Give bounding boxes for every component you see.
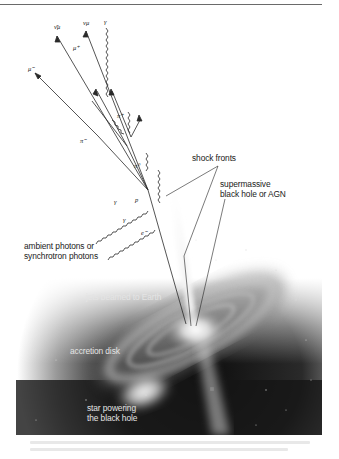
diagram-graphics	[16, 0, 322, 435]
text-line	[30, 441, 310, 444]
label-muon-neutrino: νμ	[83, 19, 89, 26]
faded-body-text	[30, 441, 310, 455]
label-mu-plus: μ⁺	[73, 44, 79, 52]
label-anti-muon-neutrino: ν̄μ	[54, 23, 60, 30]
label-pi-zero: π⁰	[134, 162, 140, 170]
label-ambient-photons: ambient photons or synchrotron photons	[24, 241, 98, 261]
agn-diagram: ν̄μ νμ γ μ⁺ μ⁻ π⁺ π⁻ π⁰ p γ γ e⁻ shock f…	[16, 0, 322, 435]
label-mu-minus: μ⁻	[28, 65, 34, 73]
label-accretion-disk: accretion disk	[70, 346, 120, 356]
text-line	[30, 448, 288, 451]
label-supermassive-black-hole: supermassive black hole or AGN	[220, 179, 286, 199]
label-gamma-top: γ	[104, 18, 107, 25]
label-pi-plus: π⁺	[117, 112, 123, 120]
label-jets: jets beamed to Earth	[86, 292, 161, 302]
label-proton: p	[135, 196, 138, 203]
label-companion-star: star powering the black hole	[87, 403, 137, 423]
label-pi-minus: π⁻	[80, 137, 86, 145]
label-gamma-left: γ	[114, 198, 117, 205]
label-shock-fronts: shock fronts	[192, 153, 236, 163]
label-electron: e⁻	[141, 229, 147, 237]
label-gamma-lower: γ	[123, 216, 126, 223]
